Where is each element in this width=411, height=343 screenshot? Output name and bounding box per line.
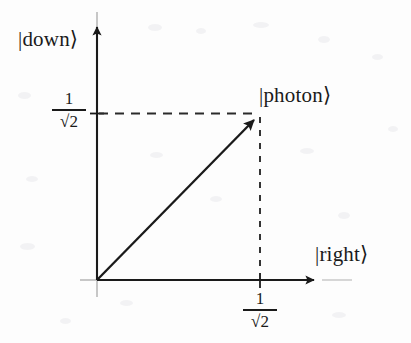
x-axis-label: |right⟩ (315, 244, 368, 265)
x-tick-numerator: 1 (243, 290, 277, 308)
photon-vector-label: |photon⟩ (259, 85, 331, 106)
y-tick-denominator: √2 (52, 112, 86, 130)
y-axis-label: |down⟩ (18, 29, 78, 50)
photon-state-vector-diagram: |down⟩ |right⟩ |photon⟩ 1 √2 1 √2 (0, 0, 411, 343)
diagram-canvas (0, 0, 411, 343)
x-axis-tick-label: 1 √2 (243, 290, 277, 330)
y-tick-fraction-bar (52, 109, 86, 111)
photon-state-vector-arrow (97, 120, 254, 280)
y-tick-numerator: 1 (52, 90, 86, 108)
y-axis-tick-label: 1 √2 (52, 90, 86, 130)
x-tick-denominator: √2 (243, 312, 277, 330)
x-tick-fraction-bar (243, 309, 277, 311)
